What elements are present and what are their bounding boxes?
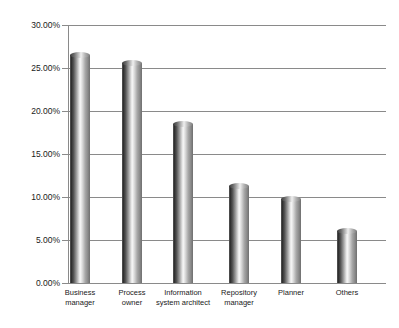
x-axis-baseline <box>68 283 386 284</box>
gridline <box>68 154 386 155</box>
bar <box>122 63 142 283</box>
bar-top-cap <box>337 228 357 234</box>
bar <box>229 186 249 283</box>
y-axis-tick-label: 15.00% <box>8 149 60 159</box>
gridline <box>68 68 386 69</box>
plot-area <box>68 25 386 283</box>
bar <box>281 199 301 283</box>
y-axis-tick-label: 5.00% <box>8 235 60 245</box>
y-axis-tick-label: 20.00% <box>8 106 60 116</box>
y-axis-tick-label: 30.00% <box>8 20 60 30</box>
bar <box>337 231 357 283</box>
x-axis-category-label: Others <box>309 288 385 298</box>
bar-top-cap <box>229 183 249 189</box>
y-axis-tick-label: 10.00% <box>8 192 60 202</box>
bar-top-cap <box>122 60 142 66</box>
bar-top-cap <box>173 121 193 127</box>
gridline <box>68 111 386 112</box>
y-axis-tick-label: 25.00% <box>8 63 60 73</box>
bar-top-cap <box>70 52 90 58</box>
bar-top-cap <box>281 196 301 202</box>
bar-chart: 0.00%5.00%10.00%15.00%20.00%25.00%30.00%… <box>0 0 399 328</box>
bar <box>70 55 90 283</box>
gridline <box>68 25 386 26</box>
bar <box>173 124 193 283</box>
y-axis-tick-label: 0.00% <box>8 278 60 288</box>
gridline <box>68 197 386 198</box>
